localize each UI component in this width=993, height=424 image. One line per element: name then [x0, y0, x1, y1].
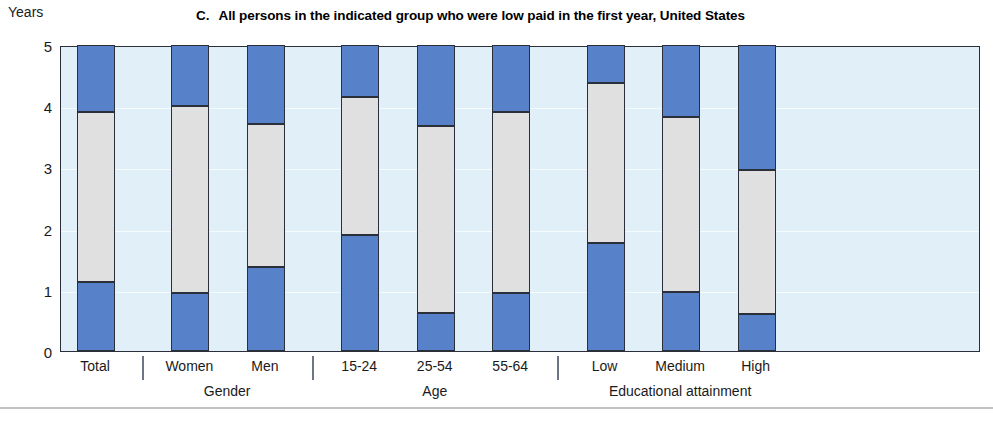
bar-25-54 [417, 45, 455, 351]
plot-area [60, 46, 980, 352]
middle-segment [341, 97, 379, 235]
middle-segment [662, 117, 700, 292]
chart-title: C. All persons in the indicated group wh… [196, 5, 896, 25]
x-tick-label-men: Men [251, 358, 278, 374]
x-tick-label-55-64: 55-64 [492, 358, 528, 374]
group-label-gender: Gender [204, 383, 251, 399]
x-tick-label-total: Total [80, 358, 110, 374]
y-tick-label: 2 [8, 221, 52, 238]
y-tick-label: 3 [8, 160, 52, 177]
group-separator [312, 356, 314, 380]
lower-segment [587, 243, 625, 351]
lower-segment [341, 235, 379, 351]
bar-high [738, 45, 776, 351]
bar-15-24 [341, 45, 379, 351]
bar-total [77, 45, 115, 351]
lower-segment [492, 293, 530, 351]
lower-segment [171, 293, 209, 351]
upper-segment [77, 45, 115, 112]
lower-segment [738, 314, 776, 351]
middle-segment [77, 112, 115, 282]
y-axis-ticks: 012345 [0, 0, 52, 424]
y-tick-label: 4 [8, 99, 52, 116]
bar-women [171, 45, 209, 351]
upper-segment [587, 45, 625, 83]
upper-segment [171, 45, 209, 106]
lower-segment [417, 313, 455, 351]
lower-segment [662, 292, 700, 351]
lower-segment [77, 282, 115, 351]
middle-segment [738, 170, 776, 314]
x-tick-label-25-54: 25-54 [417, 358, 453, 374]
panel-letter: C. [196, 8, 210, 23]
upper-segment [662, 45, 700, 117]
chart-title-text: All persons in the indicated group who w… [219, 8, 745, 23]
group-label-age: Age [422, 383, 447, 399]
upper-segment [247, 45, 285, 124]
chart-figure: C. All persons in the indicated group wh… [0, 0, 993, 424]
upper-segment [417, 45, 455, 126]
lower-segment [247, 267, 285, 351]
upper-segment [738, 45, 776, 170]
footer-divider [0, 407, 993, 409]
y-tick-label: 0 [8, 344, 52, 361]
bar-low [587, 45, 625, 351]
bar-men [247, 45, 285, 351]
middle-segment [247, 124, 285, 267]
group-separator [142, 356, 144, 380]
group-label-educational-attainment: Educational attainment [609, 383, 751, 399]
upper-segment [492, 45, 530, 112]
bar-55-64 [492, 45, 530, 351]
x-tick-label-high: High [741, 358, 770, 374]
middle-segment [417, 126, 455, 313]
x-tick-label-low: Low [592, 358, 618, 374]
y-tick-label: 5 [8, 38, 52, 55]
x-tick-label-medium: Medium [655, 358, 705, 374]
group-separator [557, 356, 559, 380]
x-tick-label-15-24: 15-24 [341, 358, 377, 374]
y-tick-label: 1 [8, 282, 52, 299]
upper-segment [341, 45, 379, 97]
middle-segment [587, 83, 625, 243]
bar-medium [662, 45, 700, 351]
x-tick-label-women: Women [165, 358, 213, 374]
x-axis-labels: TotalWomenMen15-2425-5455-64LowMediumHig… [60, 352, 980, 424]
middle-segment [492, 112, 530, 293]
middle-segment [171, 106, 209, 293]
